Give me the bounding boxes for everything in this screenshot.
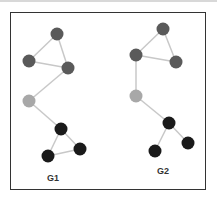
graph-node: [51, 28, 64, 41]
graph-label-g1: G1: [47, 173, 59, 183]
graph-label-g2: G2: [157, 166, 169, 176]
graph-node: [130, 49, 143, 62]
graph-node: [55, 123, 68, 136]
graph-node: [42, 150, 55, 163]
graph-node: [149, 145, 162, 158]
graph-g2: [130, 23, 195, 158]
graph-node: [23, 55, 36, 68]
graph-node: [163, 117, 176, 130]
graph-node: [170, 56, 183, 69]
graph-canvas: [0, 0, 217, 203]
graph-node: [130, 90, 143, 103]
graph-node: [62, 62, 75, 75]
graph-g1: [23, 28, 87, 163]
graph-node: [74, 143, 87, 156]
graph-node: [23, 95, 36, 108]
graph-node: [182, 137, 195, 150]
graph-edge: [29, 68, 68, 101]
graph-node: [157, 23, 170, 36]
